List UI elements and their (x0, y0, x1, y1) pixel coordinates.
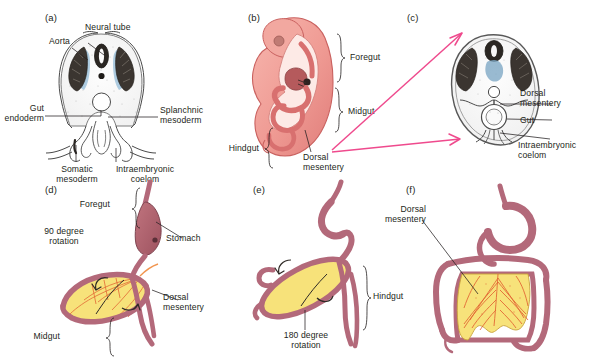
panel-d-label-rotation-90: 90 degree rotation (28, 226, 100, 247)
panel-d-label-foregut: Foregut (52, 199, 110, 209)
panel-e-label-rotation-180: 180 degree rotation (267, 330, 345, 351)
panel-f-drawing (400, 178, 616, 358)
panel-a-label-neural-tube: Neural tube (85, 22, 165, 32)
panel-a-label-gut-endoderm: Gut endoderm (0, 103, 44, 124)
panel-c: (c) (400, 0, 616, 180)
panel-c-label-intraembryonic-coelom: Intraembryonic coelom (518, 140, 598, 161)
panel-d-label-midgut: Midgut (10, 331, 60, 341)
panel-b-label-foregut: Foregut (350, 52, 402, 62)
panel-b-label-hindgut: Hindgut (197, 143, 259, 153)
embryology-figure: (a) (0, 0, 616, 358)
panel-c-label-dorsal-mesentery: Dorsal mesentery (520, 88, 586, 109)
panel-f-label-dorsal-mesentery: Dorsal mesentery (366, 204, 426, 225)
panel-a: (a) (0, 0, 205, 178)
panel-b-label-dorsal-mesentery: Dorsal mesentery (303, 152, 365, 173)
panel-a-label-aorta: Aorta (22, 36, 70, 46)
panel-b: (b) (205, 0, 405, 180)
panel-c-label-gut: Gut (520, 115, 560, 125)
panel-d: (d) (0, 178, 205, 358)
panel-f: (f) (400, 178, 616, 358)
